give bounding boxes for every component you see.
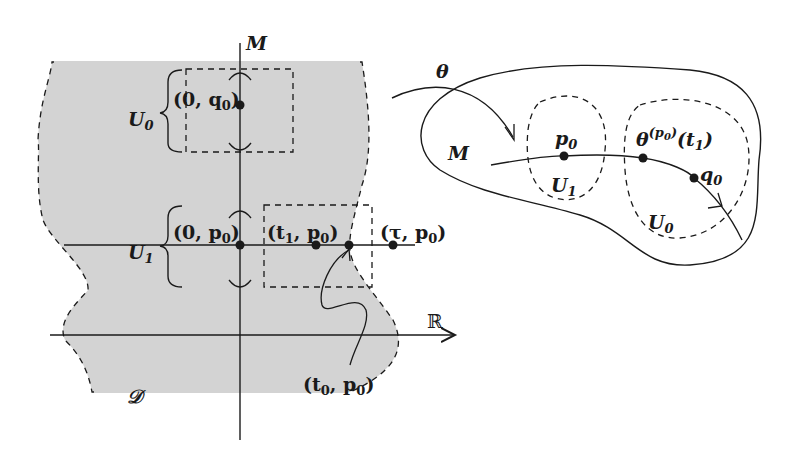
q0-label: q0 bbox=[700, 163, 722, 188]
u0-oval-label: U0 bbox=[648, 211, 674, 236]
p0-label: p0 bbox=[555, 127, 577, 152]
m-axis-label: M bbox=[245, 32, 268, 54]
flow-domain-diagram: M ℝ 𝒟 U0 U1 (0, q0) (0, p0) (t1, p0) (τ,… bbox=[0, 0, 794, 460]
manifold-m-label: M bbox=[447, 142, 470, 164]
u1-oval-label: U1 bbox=[551, 174, 577, 199]
label-tau-p0: (τ, p0) bbox=[380, 221, 446, 246]
theta-map-arrow bbox=[392, 87, 513, 137]
point-theta-p0-t1 bbox=[639, 154, 648, 163]
curve-direction-arrowhead bbox=[708, 193, 722, 208]
r-axis-label: ℝ bbox=[427, 310, 443, 332]
point-p0 bbox=[560, 152, 569, 161]
theta-p0-t1-label: θ(p0)(t1) bbox=[636, 125, 713, 153]
point-q0 bbox=[690, 174, 699, 183]
u0-oval bbox=[624, 99, 749, 238]
theta-label: θ bbox=[436, 60, 449, 82]
